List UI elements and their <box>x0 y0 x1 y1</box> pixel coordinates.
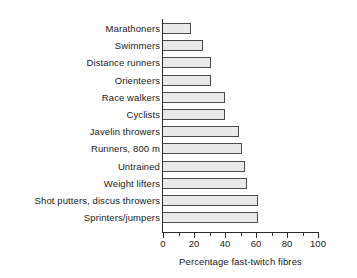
bar-row: Race walkers <box>0 90 357 107</box>
bar-category-label: Untrained <box>118 160 160 173</box>
bar <box>163 92 225 103</box>
bar <box>163 109 225 120</box>
fast-twitch-fibre-bar-chart: MarathonersSwimmersDistance runnersOrien… <box>0 0 357 278</box>
bar-category-label: Cyclists <box>126 108 160 121</box>
bar-category-label: Race walkers <box>102 91 160 104</box>
bar-row: Swimmers <box>0 38 357 55</box>
bar-row: Cyclists <box>0 107 357 124</box>
bar-row: Weight lifters <box>0 176 357 193</box>
bar-row: Sprinters/jumpers <box>0 210 357 227</box>
bar-row: Orienteers <box>0 73 357 90</box>
bar-row: Untrained <box>0 159 357 176</box>
bar-row: Marathoners <box>0 21 357 38</box>
x-axis-tick-label: 40 <box>210 238 240 249</box>
x-axis-title: Percentage fast-twitch fibres <box>163 256 318 267</box>
bar-category-label: Orienteers <box>115 74 160 87</box>
bar <box>163 143 242 154</box>
bar <box>163 126 239 137</box>
bar-category-label: Javelin throwers <box>90 125 160 138</box>
bar <box>163 57 211 68</box>
x-axis-tick-label: 80 <box>272 238 302 249</box>
bar-row: Javelin throwers <box>0 124 357 141</box>
x-axis-minor-tick <box>179 233 180 236</box>
x-axis-tick-label: 60 <box>241 238 271 249</box>
x-axis-tick-label: 0 <box>148 238 178 249</box>
x-axis-tick-label: 100 <box>303 238 333 249</box>
bar-category-label: Weight lifters <box>104 177 160 190</box>
x-axis-minor-tick <box>303 233 304 236</box>
bar-row: Distance runners <box>0 55 357 72</box>
bar <box>163 161 245 172</box>
bar <box>163 23 191 34</box>
bar <box>163 212 258 223</box>
bar <box>163 178 247 189</box>
bar <box>163 195 258 206</box>
bar-category-label: Distance runners <box>87 56 160 69</box>
bar-category-label: Swimmers <box>115 39 160 52</box>
x-axis-tick-label: 20 <box>179 238 209 249</box>
x-axis-minor-tick <box>272 233 273 236</box>
bar <box>163 40 203 51</box>
bar-category-label: Sprinters/jumpers <box>84 211 160 224</box>
bar-row: Shot putters, discus throwers <box>0 193 357 210</box>
x-axis-minor-tick <box>241 233 242 236</box>
bar <box>163 75 211 86</box>
bar-category-label: Shot putters, discus throwers <box>35 194 160 207</box>
x-axis-minor-tick <box>210 233 211 236</box>
bar-category-label: Marathoners <box>106 22 160 35</box>
bar-row: Runners, 800 m <box>0 141 357 158</box>
bar-category-label: Runners, 800 m <box>91 142 160 155</box>
